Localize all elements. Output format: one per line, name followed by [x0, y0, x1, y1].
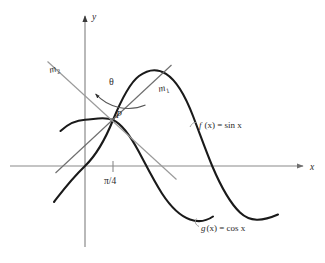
axes-group — [10, 16, 303, 247]
cosine-function-label-rest: (x) = cos x — [207, 223, 246, 233]
sine-function-label-f: f — [199, 120, 203, 130]
m1-label: m 1 — [157, 82, 170, 96]
m2-label: m 2 — [48, 63, 61, 77]
math-diagram-svg: y x π/4 P θ m 1 m 2 f (x) = sin x g (x) … — [0, 0, 325, 263]
cosine-curve — [61, 118, 214, 221]
cosine-function-label-g: g — [201, 223, 206, 233]
cosine-function-label: g (x) = cos x — [201, 223, 246, 233]
leader-lines-group — [190, 122, 199, 226]
g-label-leader — [195, 219, 199, 227]
y-axis-label: y — [91, 12, 97, 22]
figure-container: y x π/4 P θ m 1 m 2 f (x) = sin x g (x) … — [0, 0, 325, 263]
sine-function-label: f (x) = sin x — [199, 120, 242, 130]
point-p-label: P — [115, 110, 122, 120]
x-tick-label-pi-over-4: π/4 — [104, 176, 116, 186]
m2-label-subscript: 2 — [56, 67, 61, 75]
sine-function-label-rest: (x) = sin x — [205, 120, 243, 130]
theta-label: θ — [109, 76, 114, 87]
m1-label-subscript: 1 — [165, 87, 170, 95]
x-axis-label: x — [309, 162, 315, 172]
labels-group: y x π/4 P θ m 1 m 2 f (x) = sin x g (x) … — [48, 12, 315, 233]
